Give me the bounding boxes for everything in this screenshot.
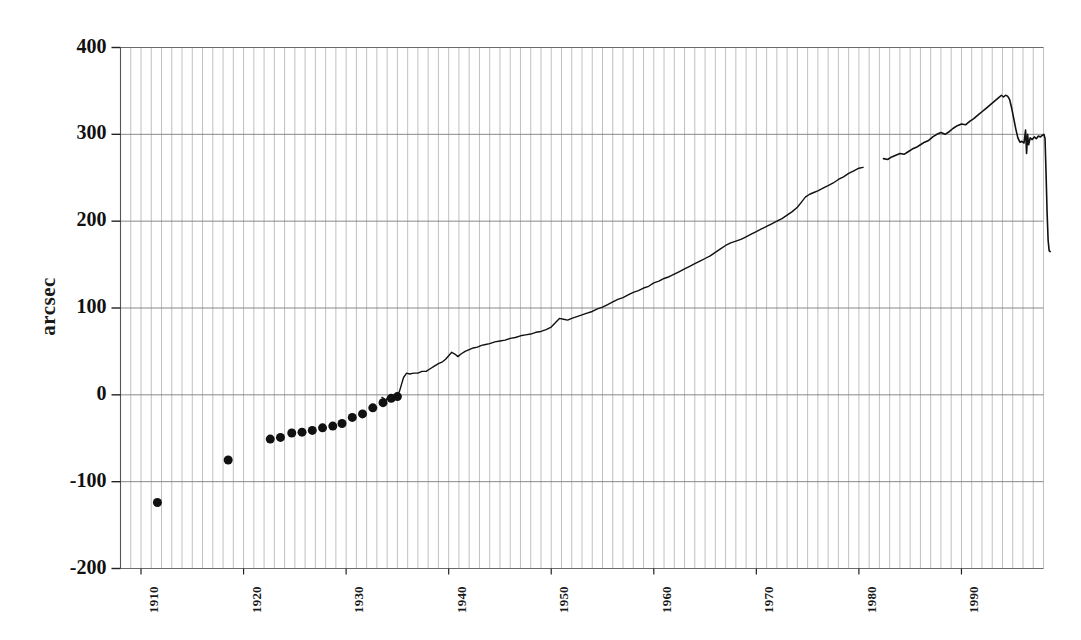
y-tick-marks bbox=[112, 48, 121, 569]
data-point bbox=[338, 419, 347, 428]
chart-canvas bbox=[0, 0, 1081, 640]
data-point bbox=[368, 403, 377, 412]
series-scatter-0 bbox=[153, 392, 402, 507]
y-tick-label: -100 bbox=[70, 469, 107, 492]
y-tick-label: 300 bbox=[77, 121, 107, 144]
y-tick-label: -200 bbox=[70, 556, 107, 579]
data-point bbox=[287, 429, 296, 438]
x-tick-label: 1970 bbox=[761, 586, 777, 613]
x-tick-label: 1950 bbox=[556, 586, 572, 613]
y-tick-label: 400 bbox=[77, 35, 107, 58]
series-line-2 bbox=[884, 95, 1051, 251]
x-tick-label: 1910 bbox=[146, 586, 162, 613]
data-point bbox=[358, 409, 367, 418]
series-line-1 bbox=[382, 167, 863, 400]
y-axis-label: arcsec bbox=[36, 269, 61, 345]
x-tick-label: 1930 bbox=[351, 586, 367, 613]
data-point bbox=[266, 435, 275, 444]
chart-figure: 4003002001000-100-2001910192019301940195… bbox=[0, 0, 1081, 640]
x-tick-label: 1980 bbox=[864, 586, 880, 613]
y-tick-label: 100 bbox=[77, 295, 107, 318]
x-tick-label: 1990 bbox=[966, 586, 982, 613]
data-point bbox=[276, 433, 285, 442]
x-tick-marks bbox=[141, 569, 961, 575]
x-tick-label: 1960 bbox=[659, 586, 675, 613]
data-point bbox=[153, 498, 162, 507]
data-point bbox=[298, 428, 307, 437]
data-point bbox=[348, 413, 357, 422]
data-point bbox=[308, 426, 317, 435]
x-tick-label: 1920 bbox=[249, 586, 265, 613]
data-point bbox=[224, 455, 233, 464]
data-point bbox=[328, 422, 337, 431]
y-tick-label: 200 bbox=[77, 208, 107, 231]
data-point bbox=[318, 423, 327, 432]
x-tick-label: 1940 bbox=[454, 586, 470, 613]
y-tick-label: 0 bbox=[97, 382, 107, 405]
